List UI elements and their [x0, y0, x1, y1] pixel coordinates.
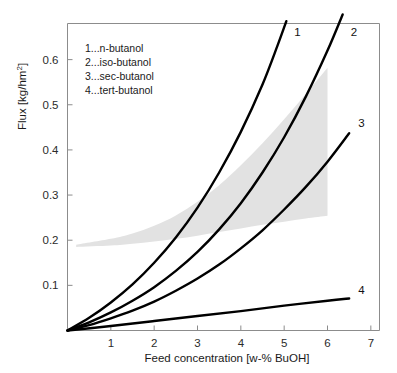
y-axis-label-base: Flux [kg/hm [16, 71, 28, 130]
svg-text:Flux [kg/hm2]: Flux [kg/hm2] [15, 63, 28, 130]
y-axis-label: Flux [kg/hm2] [15, 63, 28, 130]
y-axis-label-tail: ] [16, 63, 28, 66]
curve-label-3: 3 [358, 117, 364, 129]
x-tick-label: 7 [368, 337, 374, 349]
curve-label-1: 1 [294, 26, 300, 38]
x-tick-label: 1 [108, 337, 114, 349]
x-tick-label: 2 [151, 337, 157, 349]
legend-item-1: 1...n-butanol [85, 42, 143, 54]
x-tick-label: 5 [281, 337, 287, 349]
legend-item-3: 3...sec-butanol [85, 70, 154, 82]
legend-item-4: 4...tert-butanol [85, 84, 153, 96]
flux-vs-feed-concentration-chart: 1234567 0.10.20.30.40.50.6 1234 1...n-bu… [0, 0, 397, 373]
y-tick-label: 0.1 [43, 279, 59, 291]
y-tick-label: 0.6 [43, 54, 59, 66]
curve-label-4: 4 [358, 284, 365, 296]
x-tick-label: 6 [324, 337, 330, 349]
y-tick-label: 0.4 [43, 144, 60, 156]
y-tick-label: 0.5 [43, 99, 59, 111]
x-axis-label: Feed concentration [w-% BuOH] [145, 352, 310, 364]
x-tick-label: 3 [194, 337, 200, 349]
chart-figure: 1234567 0.10.20.30.40.50.6 1234 1...n-bu… [0, 0, 397, 373]
y-tick-label: 0.3 [43, 189, 59, 201]
curve-label-2: 2 [351, 26, 357, 38]
x-tick-label: 4 [238, 337, 245, 349]
y-tick-label: 0.2 [43, 234, 59, 246]
legend-item-2: 2...iso-butanol [85, 56, 151, 68]
